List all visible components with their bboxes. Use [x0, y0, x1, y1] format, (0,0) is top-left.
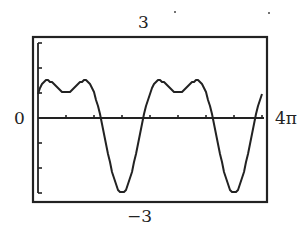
y-min-label: −3: [127, 208, 152, 225]
function-curve: [38, 80, 262, 192]
x-max-label: 4π: [275, 110, 297, 127]
x-min-label: 0: [14, 110, 25, 127]
scan-speck: [268, 12, 270, 14]
scan-speck: [174, 11, 176, 13]
function-plot: [0, 0, 308, 229]
x-axis: [38, 115, 264, 118]
window-frame: [33, 37, 267, 202]
y-max-label: 3: [138, 14, 149, 31]
